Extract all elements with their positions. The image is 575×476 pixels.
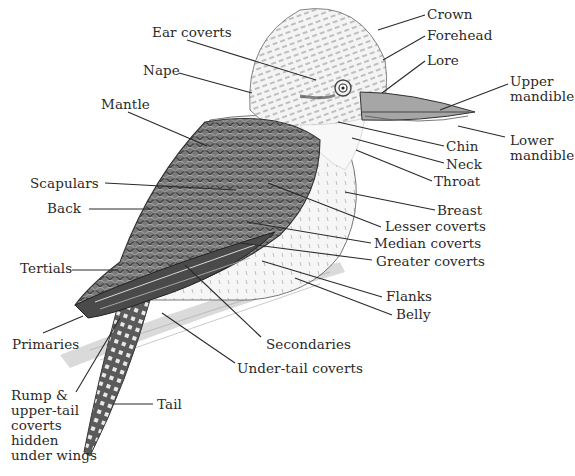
label-under-tail-coverts: Under-tail coverts bbox=[237, 361, 363, 376]
label-belly: Belly bbox=[396, 307, 431, 322]
label-mantle: Mantle bbox=[101, 97, 150, 112]
leader-line-scapulars bbox=[105, 183, 236, 190]
label-neck: Neck bbox=[446, 157, 482, 172]
leader-line-median-coverts bbox=[247, 222, 371, 243]
leader-line-rump bbox=[76, 318, 120, 392]
leader-line-crown bbox=[378, 15, 425, 30]
leader-line-greater-coverts bbox=[240, 243, 372, 260]
leader-line-lore bbox=[382, 61, 425, 93]
label-ear-coverts: Ear coverts bbox=[152, 25, 232, 40]
label-back: Back bbox=[47, 201, 81, 216]
leader-line-secondaries bbox=[185, 265, 261, 337]
label-lesser-coverts: Lesser coverts bbox=[385, 219, 486, 234]
leader-line-ear-coverts bbox=[187, 40, 316, 80]
label-forehead: Forehead bbox=[427, 28, 492, 43]
leader-line-neck bbox=[352, 138, 444, 163]
leader-line-under-tail-coverts bbox=[162, 313, 235, 363]
label-median-coverts: Median coverts bbox=[374, 236, 481, 251]
label-flanks: Flanks bbox=[386, 289, 432, 304]
leader-line-breast bbox=[345, 192, 435, 210]
label-primaries: Primaries bbox=[12, 337, 79, 352]
leader-line-lower-mandible bbox=[458, 126, 505, 137]
leader-line-chin bbox=[338, 122, 444, 146]
label-secondaries: Secondaries bbox=[266, 337, 351, 352]
leader-line-flanks bbox=[262, 261, 382, 297]
label-scapulars: Scapulars bbox=[30, 176, 99, 191]
label-upper-mandible: Upper mandible bbox=[510, 74, 574, 104]
label-chin: Chin bbox=[446, 139, 478, 154]
leader-line-primaries bbox=[43, 316, 83, 333]
label-breast: Breast bbox=[437, 203, 482, 218]
label-tertials: Tertials bbox=[20, 261, 72, 276]
label-rump: Rump & upper-tail coverts hidden under w… bbox=[11, 388, 97, 463]
leader-line-nape bbox=[179, 73, 252, 93]
leader-line-upper-mandible bbox=[440, 84, 508, 110]
leader-line-lesser-coverts bbox=[268, 183, 381, 227]
leader-line-mantle bbox=[128, 112, 207, 146]
label-nape: Nape bbox=[143, 63, 180, 78]
leader-line-throat bbox=[356, 150, 432, 181]
leader-line-belly bbox=[295, 278, 392, 315]
bird-anatomy-diagram: CrownForeheadLoreUpper mandibleLower man… bbox=[0, 0, 575, 476]
leader-line-forehead bbox=[383, 36, 425, 60]
label-greater-coverts: Greater coverts bbox=[376, 254, 485, 269]
label-lower-mandible: Lower mandible bbox=[510, 133, 574, 163]
label-crown: Crown bbox=[427, 7, 473, 22]
label-throat: Throat bbox=[434, 174, 480, 189]
label-tail: Tail bbox=[157, 397, 182, 412]
label-lore: Lore bbox=[427, 53, 459, 68]
